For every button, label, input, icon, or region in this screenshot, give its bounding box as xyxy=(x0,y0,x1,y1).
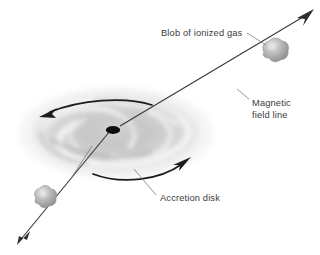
accretion-disk-figure: Blob of ionized gas Magnetic field line … xyxy=(0,0,320,255)
ionized-gas-blob-lower xyxy=(35,185,57,207)
blob-upper-shape xyxy=(263,38,289,62)
label-magnetic-line-1: Magnetic xyxy=(252,98,291,108)
blob-upper-highlight xyxy=(268,44,275,50)
ionized-gas-blob-upper xyxy=(263,38,289,62)
label-blob-of-ionized-gas: Blob of ionized gas xyxy=(161,28,243,38)
blob-lower-highlight xyxy=(40,192,46,197)
leader-line-blob xyxy=(247,33,266,45)
field-line-lower-arrowhead xyxy=(17,231,30,245)
label-accretion-disk: Accretion disk xyxy=(160,193,220,203)
label-magnetic-line-2: field line xyxy=(252,110,288,120)
field-line-upper-arrowhead xyxy=(297,9,314,26)
blob-lower-shape xyxy=(35,185,57,207)
leader-line-magnetic xyxy=(237,89,249,99)
black-hole-singularity xyxy=(106,126,120,134)
